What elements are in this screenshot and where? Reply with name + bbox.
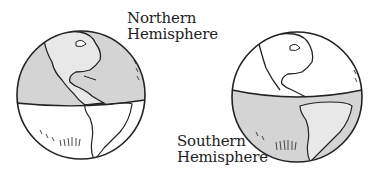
northern-hemisphere-label: Northern Hemisphere xyxy=(127,10,218,42)
northern-label-line2: Hemisphere xyxy=(127,26,218,42)
southern-label-line1: Southern xyxy=(177,133,268,149)
northern-label-line1: Northern xyxy=(127,10,218,26)
southern-label-line2: Hemisphere xyxy=(177,149,268,165)
southern-hemisphere-label: Southern Hemisphere xyxy=(177,133,268,165)
